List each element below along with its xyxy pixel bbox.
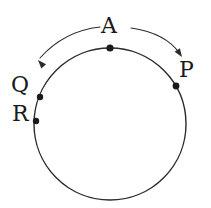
point-label-p: P — [179, 59, 194, 81]
point-label-q: Q — [11, 74, 29, 96]
point-marker-p — [173, 83, 180, 90]
main-circle — [34, 48, 186, 200]
counterclockwise-arrow-curve — [40, 27, 100, 58]
circle-diagram-figure: A P Q R — [0, 0, 211, 208]
point-marker-r — [33, 118, 39, 124]
counterclockwise-arrow-head — [38, 60, 46, 68]
point-label-a: A — [101, 15, 117, 37]
point-marker-a — [106, 44, 113, 51]
clockwise-arrow-curve — [131, 28, 180, 54]
point-label-r: R — [12, 103, 29, 125]
clockwise-arrow-head — [175, 48, 182, 57]
point-marker-q — [37, 94, 43, 100]
point-markers-group — [33, 44, 180, 124]
